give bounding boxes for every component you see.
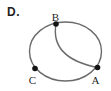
answer-choice-figure: D. B C A [0, 0, 111, 91]
geometry-diagram: B C A [0, 0, 111, 91]
point-b-label: B [52, 11, 59, 23]
point-c-dot [32, 66, 38, 72]
point-c-label: C [29, 74, 36, 86]
circle-outline [30, 22, 102, 81]
point-a-label: A [92, 74, 100, 86]
point-a-dot [95, 65, 101, 71]
